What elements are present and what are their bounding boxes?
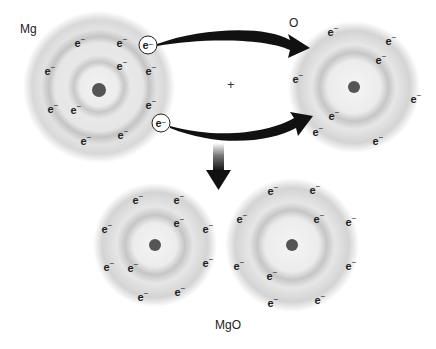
plus-sign: +	[227, 77, 235, 92]
electron: e−	[175, 286, 186, 299]
o-atom	[288, 21, 420, 153]
electron: e−	[310, 184, 321, 197]
electron: e−	[48, 103, 59, 116]
transfer-arrow-bottom-icon	[170, 112, 313, 141]
electron: e−	[133, 194, 144, 207]
mg-ion-nucleus-icon	[149, 239, 161, 251]
mgo-label: MgO	[215, 318, 241, 332]
electron: e−	[104, 261, 115, 274]
electron: e−	[373, 135, 384, 148]
o-ion	[225, 178, 359, 312]
diagram-graphics	[0, 0, 436, 349]
electron: e−	[386, 35, 397, 48]
mg-label: Mg	[20, 22, 37, 36]
electron: e−	[315, 294, 326, 307]
electron: e−	[267, 270, 278, 283]
electron: e−	[71, 104, 82, 117]
electron: e−	[102, 223, 113, 236]
electron: e−	[203, 223, 214, 236]
electron: e−	[268, 297, 279, 310]
electron: e−	[174, 194, 185, 207]
electron: e−	[146, 99, 157, 112]
electron: e−	[45, 65, 56, 78]
electron: e−	[174, 217, 185, 230]
electron: e−	[268, 185, 279, 198]
electron: e−	[346, 260, 357, 273]
ionic-bonding-diagram: Mg O MgO + e− e− e− e− e− e− e− e− e− e−…	[0, 0, 436, 349]
electron: e−	[411, 93, 422, 106]
transfer-arrow-top-icon	[157, 30, 310, 58]
electron: e−	[314, 213, 325, 226]
electron: e−	[328, 26, 339, 39]
electron: e−	[234, 260, 245, 273]
o-label: O	[289, 16, 298, 30]
mg-nucleus-icon	[92, 83, 106, 97]
mg-ion	[93, 183, 217, 307]
electron: e−	[329, 110, 340, 123]
electron: e−	[128, 262, 139, 275]
transferred-electron: e−	[139, 36, 158, 55]
transferred-electron: e−	[152, 114, 171, 133]
electron: e−	[146, 65, 157, 78]
down-arrow-icon	[206, 143, 231, 190]
electron: e−	[293, 73, 304, 86]
electron: e−	[118, 129, 129, 142]
electron: e−	[75, 37, 86, 50]
electron: e−	[117, 60, 128, 73]
o-ion-nucleus-icon	[286, 239, 298, 251]
electron: e−	[81, 135, 92, 148]
electron: e−	[138, 291, 149, 304]
electron: e−	[237, 213, 248, 226]
electron: e−	[203, 257, 214, 270]
mg-atom	[23, 11, 175, 163]
o-nucleus-icon	[348, 81, 360, 93]
electron: e−	[346, 216, 357, 229]
electron: e−	[376, 54, 387, 67]
electron: e−	[313, 126, 324, 139]
electron: e−	[117, 37, 128, 50]
